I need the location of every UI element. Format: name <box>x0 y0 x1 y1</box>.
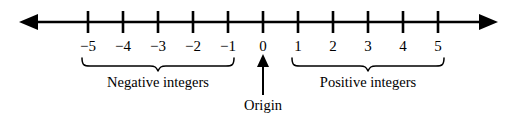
tick-label: 0 <box>259 38 267 54</box>
tick-label: −3 <box>150 38 166 54</box>
tick-label: 2 <box>329 38 337 54</box>
origin-label: Origin <box>244 97 283 113</box>
origin-up-arrow-icon <box>257 54 269 67</box>
left-arrow-icon <box>19 14 38 30</box>
tick-label: 5 <box>434 38 442 54</box>
tick-label: −5 <box>80 38 96 54</box>
tick-label: −1 <box>220 38 236 54</box>
number-line-canvas: −5 −4 −3 −2 −1 0 1 2 3 4 5 Negative inte… <box>0 0 513 119</box>
negative-integers-brace <box>82 58 234 71</box>
positive-integers-label: Positive integers <box>320 74 417 90</box>
tick-label: 4 <box>399 38 407 54</box>
negative-integers-label: Negative integers <box>107 74 209 90</box>
right-arrow-icon <box>479 14 498 30</box>
tick-label: 1 <box>294 38 302 54</box>
number-line-figure: −5 −4 −3 −2 −1 0 1 2 3 4 5 Negative inte… <box>0 0 513 119</box>
positive-integers-brace <box>292 58 444 71</box>
tick-label: 3 <box>364 38 372 54</box>
tick-label: −4 <box>115 38 131 54</box>
tick-label: −2 <box>185 38 201 54</box>
